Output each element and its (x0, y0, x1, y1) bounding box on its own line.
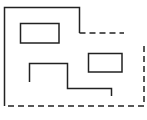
background (0, 0, 147, 120)
floor-plan-diagram (0, 0, 147, 120)
